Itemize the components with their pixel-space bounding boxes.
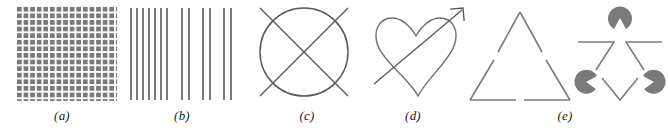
pacman-disc-top bbox=[608, 7, 632, 29]
pacman-disc-left bbox=[574, 70, 597, 94]
pacman-disc-right bbox=[643, 70, 666, 94]
circle-with-cross-graphic bbox=[248, 0, 368, 108]
panel-b bbox=[126, 0, 238, 108]
corner-angle-bottom bbox=[602, 78, 638, 100]
corner-angle-top-left bbox=[578, 42, 614, 70]
corner-angle-top-right bbox=[626, 42, 662, 70]
gapped-triangle bbox=[470, 12, 570, 100]
heart-outline bbox=[376, 18, 456, 96]
panel-a bbox=[0, 0, 130, 108]
figure-panel-row: (a) (b) (c) (d) bbox=[0, 0, 668, 130]
panel-e bbox=[462, 0, 668, 108]
panel-label-d: (d) bbox=[405, 108, 421, 124]
texture-grid-graphic bbox=[17, 5, 117, 101]
panel-label-a: (a) bbox=[54, 108, 70, 124]
vertical-lines-graphic bbox=[126, 0, 238, 108]
kanizsa-figure bbox=[574, 7, 665, 100]
panel-label-e: (e) bbox=[557, 108, 572, 124]
arrow-shaft bbox=[374, 10, 462, 84]
illusory-triangle-graphic bbox=[462, 0, 668, 108]
panel-label-b: (b) bbox=[174, 108, 190, 124]
panel-label-c: (c) bbox=[299, 108, 314, 124]
panel-c bbox=[248, 0, 368, 108]
